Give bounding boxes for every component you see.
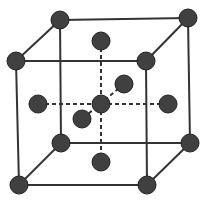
atom-back-bottom-right [181,134,199,152]
atom-front-bottom-right [138,176,156,194]
cube-edge [16,61,19,185]
atom-back-top-left [51,11,69,29]
atom-front-face [73,110,91,128]
atom-front-top-right [137,52,155,70]
cube-edge [146,61,147,185]
atom-back-top-right [179,9,197,27]
cube-edge [60,20,61,143]
atom-front-top-left [7,52,25,70]
cube-edge [188,18,190,143]
atom-back-face [115,75,133,93]
atom-left-face [29,95,47,113]
atom-back-bottom-left [52,134,70,152]
atom-right-face [159,95,177,113]
atom-bottom-face [92,153,110,171]
atom-center [92,95,110,113]
atom-top-face [92,32,110,50]
cube-edge [60,18,188,20]
atom-front-bottom-left [10,176,28,194]
cubic-lattice-diagram [0,0,207,203]
